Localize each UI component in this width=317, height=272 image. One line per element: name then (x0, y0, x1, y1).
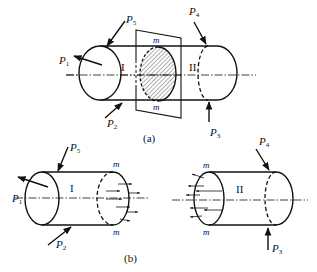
right-body-end-face (276, 172, 293, 225)
section-label-m-bottom-b-right: m (203, 227, 210, 237)
force-arrow-p4-b (256, 149, 269, 170)
label-p1-a: P1 (58, 54, 70, 68)
section-label-m-top-b-right: m (203, 160, 210, 170)
label-p4-b: P4 (258, 135, 270, 149)
part-label-i-b: I (70, 182, 74, 194)
part-label-ii-a: II (189, 61, 197, 73)
label-p5-b: P5 (69, 141, 81, 155)
left-body-section-hidden (97, 172, 113, 225)
internal-stress-arrows-left (106, 184, 140, 221)
section-label-m-top-b-left: m (113, 159, 120, 169)
force-arrow-p4 (194, 22, 206, 44)
left-end-face (79, 46, 121, 100)
force-arrow-p1-b (18, 177, 48, 187)
right-body-section-face (194, 172, 224, 225)
label-p4-a: P4 (188, 5, 200, 19)
section-label-m-top-a: m (153, 35, 160, 45)
section-label-m-bottom-a: m (153, 102, 160, 112)
label-p5-a: P5 (125, 13, 137, 27)
caption-b: (b) (124, 252, 137, 265)
right-section-hidden-edge (198, 46, 208, 100)
figure-b-right: P4 P3 II m m (172, 135, 308, 256)
internal-stress-arrows-right (186, 174, 222, 217)
figure-b-left: P1 P2 P5 I m m (b) (11, 141, 148, 265)
label-p1-b: P1 (11, 192, 23, 206)
label-p2-a: P2 (106, 117, 118, 131)
label-p3-b: P3 (271, 242, 283, 256)
diagram-canvas: P1 P2 P3 P4 P5 I II m m (a) P1 P2 (0, 0, 317, 272)
left-body-end-face (25, 172, 59, 225)
right-body-hidden-edge (265, 172, 276, 225)
figure-a: P1 P2 P3 P4 P5 I II m m (a) (58, 5, 256, 145)
section-label-m-bottom-b-left: m (113, 227, 120, 237)
part-label-i-a: I (121, 61, 125, 73)
label-p2-b: P2 (55, 238, 67, 252)
right-end-face (217, 46, 237, 100)
caption-a: (a) (143, 132, 156, 145)
label-p3-a: P3 (209, 126, 221, 140)
force-arrow-p5 (107, 21, 125, 46)
force-arrow-p2 (105, 103, 122, 118)
part-label-ii-b: II (236, 183, 244, 195)
force-arrow-p5-b (58, 147, 68, 171)
